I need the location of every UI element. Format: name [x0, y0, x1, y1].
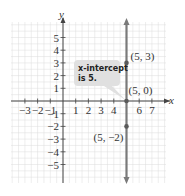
y-axis-label: y: [58, 8, 64, 20]
x-tick-label: 1: [73, 104, 79, 116]
x-tick-label: −3: [19, 104, 31, 116]
x-axis-label: x: [168, 94, 174, 106]
data-point: [124, 99, 129, 104]
x-tick-label: 7: [149, 104, 155, 116]
y-tick-label: −1: [47, 108, 59, 120]
x-tick-label: 3: [98, 104, 104, 116]
y-tick-label: 3: [54, 57, 60, 69]
line-arrow-down-icon: [124, 177, 130, 184]
point-label: (5, 3): [131, 50, 155, 63]
y-tick-label: 2: [54, 70, 60, 82]
y-tick-label: −2: [47, 120, 59, 132]
y-tick-label: −5: [47, 159, 59, 171]
point-label: (5, 0): [129, 84, 153, 97]
y-tick-label: 1: [54, 82, 60, 94]
y-tick-label: 4: [54, 44, 60, 56]
y-tick-label: −4: [47, 146, 59, 158]
line-arrow-up-icon: [124, 18, 130, 25]
x-tick-label: 2: [86, 104, 92, 116]
x-tick-label: 4: [111, 104, 117, 116]
data-point: [124, 61, 129, 66]
coordinate-plane: x-intercept is 5. (5, 3)(5, 0)(5, −2) −3…: [0, 0, 185, 196]
y-tick-label: 5: [54, 32, 60, 44]
callout-line-2: is 5.: [78, 74, 97, 83]
data-point: [124, 124, 129, 129]
y-tick-label: −3: [47, 133, 59, 145]
x-tick-label: −2: [32, 104, 44, 116]
x-tick-label: 6: [136, 104, 142, 116]
point-label: (5, −2): [93, 131, 123, 144]
callout-line-1: x-intercept: [78, 64, 128, 73]
